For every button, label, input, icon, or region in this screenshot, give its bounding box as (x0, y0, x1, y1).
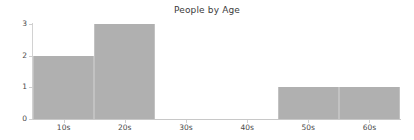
x-axis-tick (247, 120, 248, 123)
y-axis-tick (29, 56, 33, 57)
y-axis-tick-label: 3 (14, 20, 27, 28)
chart-figure: People by Age 0123 10s20s30s40s50s60s (0, 0, 414, 140)
bar-series (33, 24, 400, 119)
x-axis-tick-label: 50s (278, 123, 339, 132)
bar-cell (339, 24, 400, 119)
bar-cell (155, 24, 216, 119)
bar (278, 87, 339, 119)
x-axis-tick (186, 120, 187, 123)
x-axis-tick (125, 120, 126, 123)
x-axis-tick-label: 20s (94, 123, 155, 132)
y-axis-tick (29, 24, 33, 25)
bar (339, 87, 400, 119)
y-axis-tick (29, 119, 33, 120)
y-axis-tick-label: 2 (14, 52, 27, 60)
x-axis-tick (369, 120, 370, 123)
bar-cell (217, 24, 278, 119)
x-axis-tick-label: 30s (155, 123, 216, 132)
bar (94, 24, 155, 119)
y-axis-tick (29, 87, 33, 88)
x-axis-tick-label: 40s (217, 123, 278, 132)
plot-area (33, 24, 400, 119)
x-axis-tick (64, 120, 65, 123)
x-axis-tick (308, 120, 309, 123)
x-axis-tick-label: 10s (33, 123, 94, 132)
x-axis-tick-labels: 10s20s30s40s50s60s (33, 123, 400, 132)
x-axis-tick-label: 60s (339, 123, 400, 132)
bar-cell (278, 24, 339, 119)
bar-cell (94, 24, 155, 119)
bar (33, 56, 94, 119)
bar-cell (33, 24, 94, 119)
y-axis-tick-label: 1 (14, 83, 27, 91)
y-axis-tick-label: 0 (14, 115, 27, 123)
